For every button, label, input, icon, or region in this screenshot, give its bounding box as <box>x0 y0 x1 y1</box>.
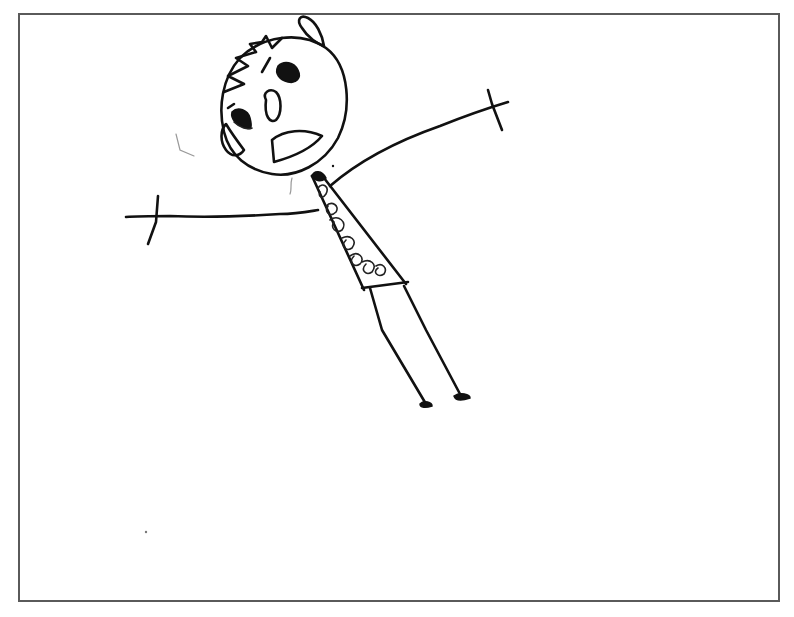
legs <box>370 286 470 407</box>
left-arm <box>126 196 318 244</box>
left-eye <box>232 109 252 128</box>
mouth <box>272 131 322 162</box>
stick-figure-drawing <box>0 0 794 617</box>
left-foot <box>420 402 432 407</box>
right-foot <box>454 394 470 400</box>
left-eyelid <box>228 104 234 108</box>
left-leg <box>370 288 426 404</box>
spiky-hair <box>224 36 282 92</box>
neck-mark <box>290 178 292 194</box>
speck <box>145 531 147 533</box>
left-hand-cross <box>148 196 158 244</box>
head <box>221 17 346 175</box>
right-eye <box>277 63 300 83</box>
stray-mark <box>176 134 194 156</box>
torso <box>312 172 408 290</box>
nose <box>265 90 281 121</box>
right-arm <box>330 90 508 186</box>
right-leg <box>404 286 460 394</box>
right-hand-cross <box>488 90 502 130</box>
eyebrow <box>262 58 270 72</box>
torso-pattern <box>318 185 385 275</box>
